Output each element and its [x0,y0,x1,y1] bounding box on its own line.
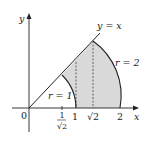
diagram-canvas: y x 0 1 √2 1 √2 2 y = x r = 1 r = 2 [0,0,147,141]
line-label: y = x [96,20,122,31]
tick-label-one: 1 [72,111,78,122]
origin-label: 0 [21,110,27,121]
y-axis-arrow-icon [27,13,32,19]
y-axis-label: y [18,13,25,24]
tick-label-sqrt2: √2 [87,111,99,122]
polar-region-diagram: y x 0 1 √2 1 √2 2 y = x r = 1 r = 2 [0,0,147,141]
outer-arc-label: r = 2 [115,57,140,68]
tick-label-one-over-sqrt2-num: 1 [60,111,65,120]
inner-arc-label: r = 1 [48,90,73,101]
x-axis-label: x [134,111,140,122]
tick-label-two: 2 [117,111,123,122]
tick-label-one-over-sqrt2-den: √2 [57,122,67,131]
x-axis-arrow-icon [133,106,139,111]
